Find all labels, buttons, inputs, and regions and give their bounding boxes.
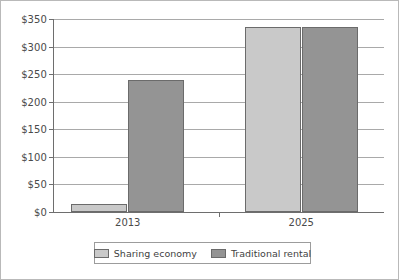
y-tick-mark xyxy=(49,102,53,103)
plot-area xyxy=(53,19,384,212)
y-tick-mark xyxy=(49,74,53,75)
y-tick-mark xyxy=(49,19,53,20)
y-tick-label: $300 xyxy=(21,41,47,52)
y-tick-mark xyxy=(49,184,53,185)
bar-2025-sharing-economy xyxy=(245,27,301,212)
x-axis-label-2013: 2013 xyxy=(115,217,140,228)
y-tick-mark xyxy=(49,129,53,130)
y-tick-label: $100 xyxy=(21,151,47,162)
y-tick-label: $50 xyxy=(28,179,47,190)
y-tick-mark xyxy=(49,212,53,213)
bar-2013-traditional-rental xyxy=(128,80,184,212)
x-axis-tick-divider xyxy=(219,212,220,217)
y-tick-label: $250 xyxy=(21,69,47,80)
y-tick-label: $200 xyxy=(21,96,47,107)
chart-legend: Sharing economyTraditional rental xyxy=(94,242,311,264)
legend-entry-traditional-rental[interactable]: Traditional rental xyxy=(211,248,311,259)
legend-entry-sharing-economy[interactable]: Sharing economy xyxy=(94,248,197,259)
legend-swatch-icon xyxy=(211,249,226,258)
bar-2025-traditional-rental xyxy=(302,27,358,212)
legend-label: Traditional rental xyxy=(231,248,311,259)
legend-swatch-icon xyxy=(94,249,109,258)
gridline-350 xyxy=(53,19,384,20)
y-axis-line xyxy=(53,19,54,213)
x-axis-label-2025: 2025 xyxy=(289,217,314,228)
y-tick-label: $350 xyxy=(21,14,47,25)
y-tick-mark xyxy=(49,47,53,48)
y-tick-label: $150 xyxy=(21,124,47,135)
bar-2013-sharing-economy xyxy=(71,204,127,212)
y-tick-label: $0 xyxy=(34,207,47,218)
legend-label: Sharing economy xyxy=(114,248,197,259)
bar-chart-figure: $0$50$100$150$200$250$300$350 20132025 S… xyxy=(0,0,399,280)
y-tick-mark xyxy=(49,157,53,158)
